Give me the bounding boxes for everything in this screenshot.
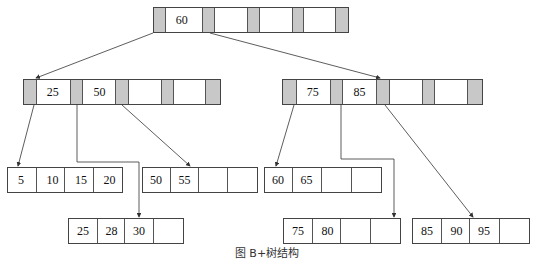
key-cell: 20 — [94, 168, 122, 192]
pointer-cell — [283, 80, 297, 104]
key-cell: 85 — [343, 80, 377, 104]
key-cell — [435, 80, 468, 104]
pointer-cell — [162, 80, 175, 104]
pointer-cell — [336, 8, 348, 32]
leaf-node-3: 50 55 — [142, 167, 258, 193]
edge-left-leaf1 — [18, 105, 34, 166]
key-cell — [390, 80, 423, 104]
internal-node-right: 75 85 — [282, 79, 483, 105]
key-cell: 25 — [37, 80, 71, 104]
key-cell — [154, 219, 183, 243]
key-cell: 60 — [166, 8, 204, 32]
key-cell — [260, 8, 293, 32]
pointer-cell — [154, 8, 166, 32]
pointer-cell — [71, 80, 84, 104]
leaf-node-6: 85 90 95 — [412, 218, 530, 244]
key-cell — [304, 8, 336, 32]
key-cell: 50 — [143, 168, 171, 192]
pointer-cell — [116, 80, 129, 104]
internal-node-left: 25 50 — [23, 79, 221, 105]
edge-left-leaf3 — [122, 105, 190, 166]
edge-root-right — [210, 33, 380, 78]
figure-caption: 图 B+树结构 — [0, 244, 534, 260]
leaf-node-1: 5 10 15 20 — [7, 167, 123, 193]
key-cell — [322, 168, 352, 192]
key-cell: 80 — [313, 219, 341, 243]
pointer-cell — [203, 8, 215, 32]
key-cell — [500, 219, 530, 243]
root-node: 60 — [153, 7, 349, 33]
key-cell — [174, 80, 206, 104]
key-cell: 75 — [284, 219, 313, 243]
pointer-cell — [293, 8, 305, 32]
pointer-cell — [331, 80, 344, 104]
pointer-cell — [24, 80, 37, 104]
key-cell: 50 — [83, 80, 116, 104]
key-cell — [199, 168, 229, 192]
key-cell — [352, 168, 382, 192]
key-cell — [215, 8, 248, 32]
edge-root-left — [36, 33, 153, 78]
leaf-node-4: 60 65 — [264, 167, 382, 193]
key-cell: 10 — [37, 168, 66, 192]
key-cell — [341, 219, 371, 243]
edge-right-leaf4 — [276, 105, 294, 166]
edge-right-leaf6 — [385, 105, 473, 217]
pointer-cell — [423, 80, 436, 104]
pointer-cell — [206, 80, 220, 104]
leaf-node-5: 75 80 — [283, 218, 401, 244]
pointer-cell — [248, 8, 260, 32]
key-cell — [129, 80, 162, 104]
pointer-cell — [468, 80, 482, 104]
key-cell: 30 — [125, 219, 154, 243]
key-cell: 60 — [265, 168, 293, 192]
key-cell: 28 — [98, 219, 126, 243]
pointer-cell — [377, 80, 390, 104]
leaf-node-2: 25 28 30 — [68, 218, 184, 244]
key-cell — [228, 168, 257, 192]
key-cell: 55 — [171, 168, 199, 192]
key-cell: 95 — [470, 219, 499, 243]
edge-left-leaf2 — [77, 105, 139, 217]
key-cell: 5 — [8, 168, 37, 192]
key-cell — [371, 219, 401, 243]
key-cell: 85 — [413, 219, 442, 243]
key-cell: 90 — [442, 219, 470, 243]
edge-right-leaf5 — [341, 105, 394, 217]
key-cell: 65 — [293, 168, 321, 192]
key-cell: 15 — [65, 168, 94, 192]
key-cell: 25 — [69, 219, 98, 243]
key-cell: 75 — [297, 80, 331, 104]
